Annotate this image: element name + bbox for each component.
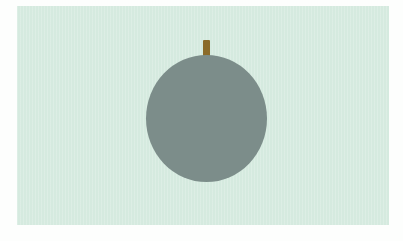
- figure-canvas: [0, 0, 403, 241]
- fruit-circle-shape: [146, 55, 267, 182]
